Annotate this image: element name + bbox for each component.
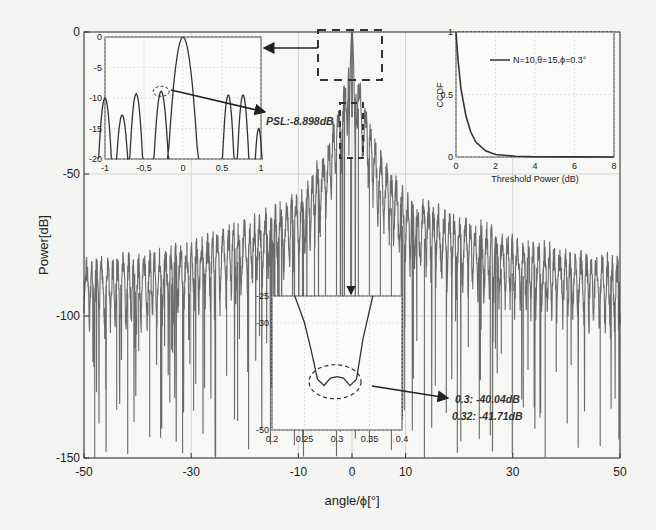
svg-text:-50: -50: [63, 167, 81, 181]
svg-text:-0.5: -0.5: [136, 163, 152, 173]
y-axis-label: Power[dB]: [36, 215, 51, 275]
svg-text:0.5: 0.5: [216, 163, 229, 173]
svg-text:2: 2: [493, 161, 498, 171]
psl-annotation: PSL:-8.898dB: [266, 115, 334, 127]
svg-text:-150: -150: [56, 451, 80, 465]
svg-text:6: 6: [572, 161, 577, 171]
svg-text:-50: -50: [256, 425, 269, 435]
svg-text:0.2: 0.2: [266, 434, 279, 444]
svg-text:-25: -25: [256, 291, 269, 301]
x-axis-label: angle/ϕ[°]: [324, 493, 379, 508]
svg-text:1: 1: [448, 27, 453, 37]
svg-text:0: 0: [448, 152, 453, 162]
beam-pattern-chart: -50-30-1001030500-50-100-150 angle/ϕ[°] …: [0, 0, 656, 530]
svg-text:-10: -10: [290, 465, 308, 479]
svg-text:1: 1: [258, 163, 263, 173]
svg-text:-100: -100: [56, 309, 80, 323]
svg-text:0: 0: [73, 25, 80, 39]
svg-text:0.35: 0.35: [361, 434, 379, 444]
null-annotation-1: 0.3: -40.04dB: [455, 393, 520, 405]
svg-text:-20: -20: [89, 154, 102, 164]
svg-text:-1: -1: [101, 163, 109, 173]
svg-text:-30: -30: [256, 318, 269, 328]
svg-text:CCDF: CCDF: [435, 82, 445, 107]
svg-text:0: 0: [97, 32, 102, 42]
svg-text:10: 10: [399, 465, 413, 479]
svg-text:50: 50: [613, 465, 627, 479]
svg-text:-5: -5: [94, 63, 102, 73]
svg-text:8: 8: [611, 161, 616, 171]
svg-text:4: 4: [532, 161, 537, 171]
svg-text:Threshold Power (dB): Threshold Power (dB): [491, 174, 579, 184]
svg-text:0: 0: [349, 465, 356, 479]
svg-text:0.25: 0.25: [296, 434, 314, 444]
svg-text:-10: -10: [89, 93, 102, 103]
svg-text:30: 30: [506, 465, 520, 479]
inset-null: 0.20.250.30.350.4-25-30-50: [256, 291, 408, 444]
svg-text:0.3: 0.3: [331, 434, 344, 444]
svg-text:N=10,θ=15,ϕ=0.3°: N=10,θ=15,ϕ=0.3°: [513, 55, 587, 65]
svg-text:0.4: 0.4: [396, 434, 409, 444]
svg-text:-50: -50: [75, 465, 93, 479]
svg-text:-30: -30: [183, 465, 201, 479]
null-annotation-2: 0.32: -41.71dB: [452, 410, 523, 422]
inset-mainlobe: -1-0.500.510-5-10-15-20: [89, 32, 264, 173]
svg-text:0: 0: [453, 161, 458, 171]
svg-text:0: 0: [180, 163, 185, 173]
